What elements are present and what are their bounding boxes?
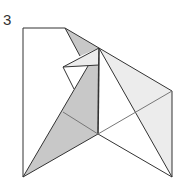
origami-fold-diagram: [0, 0, 183, 186]
center-vertical: [98, 48, 99, 134]
dark-left-wedge: [23, 65, 99, 177]
